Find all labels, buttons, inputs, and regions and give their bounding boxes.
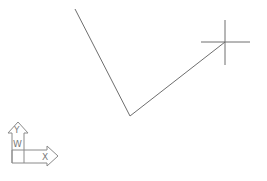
drawing-canvas[interactable]: Y W X <box>0 0 267 181</box>
drawing-area[interactable]: Y W X <box>0 0 267 181</box>
polyline-entity[interactable] <box>75 9 225 116</box>
ucs-w-label: W <box>13 139 22 149</box>
ucs-y-label: Y <box>13 125 20 135</box>
ucs-icon: Y W X <box>8 122 58 166</box>
ucs-x-label: X <box>42 152 48 162</box>
crosshair-cursor <box>201 20 250 65</box>
